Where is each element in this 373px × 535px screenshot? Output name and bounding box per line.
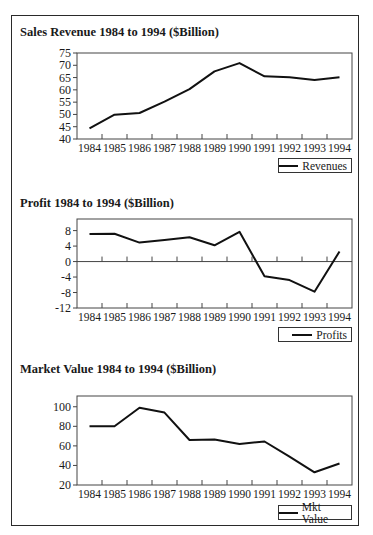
x-tick-label: 1992	[278, 488, 301, 500]
x-tick-label: 1990	[228, 488, 251, 500]
y-tick-label: 80	[59, 419, 71, 433]
x-tick-label: 1988	[178, 488, 201, 500]
x-tick-label: 1984	[78, 488, 101, 500]
market-value-line-chart: 2040608010019841985198619871988198919901…	[0, 0, 373, 535]
x-tick-label: 1994	[328, 488, 351, 500]
x-tick-label: 1987	[153, 488, 176, 500]
y-tick-label: 60	[59, 439, 71, 453]
y-tick-label: 40	[59, 458, 71, 472]
legend-line-swatch-icon	[279, 512, 298, 514]
x-tick-label: 1986	[128, 488, 151, 500]
legend-label: Mkt Value	[302, 501, 347, 525]
y-tick-label: 100	[53, 400, 71, 414]
series-line	[90, 408, 340, 473]
y-tick-label: 20	[59, 478, 71, 492]
market-value-legend: Mkt Value	[278, 505, 352, 520]
x-tick-label: 1991	[253, 488, 276, 500]
x-tick-label: 1993	[303, 488, 326, 500]
x-tick-label: 1985	[103, 488, 126, 500]
x-tick-label: 1989	[203, 488, 226, 500]
